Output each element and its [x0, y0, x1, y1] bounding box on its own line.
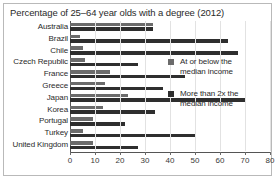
category-label: Chile: [50, 46, 68, 55]
x-tick-label: 10: [91, 156, 100, 165]
legend-label-line1: More than 2x the: [180, 89, 268, 99]
x-tick-label: 20: [116, 156, 125, 165]
chart-title: Percentage of 25–64 year olds with a deg…: [10, 7, 224, 18]
x-tick-label: 0: [68, 156, 72, 165]
category-label: Czech Republic: [13, 57, 68, 66]
gridline: [120, 21, 121, 151]
category-label: Japan: [47, 93, 68, 102]
x-tick: [195, 152, 196, 155]
chart-legend: At or below the median income More than …: [168, 57, 268, 121]
bar: [70, 87, 163, 91]
x-tick: [245, 152, 246, 155]
x-tick: [270, 152, 271, 155]
bar: [70, 110, 155, 114]
category-label: Brazil: [49, 34, 68, 43]
bar: [70, 141, 93, 145]
category-label: Korea: [47, 105, 68, 114]
bar: [70, 23, 153, 27]
category-label: Greece: [42, 81, 68, 90]
gridline: [270, 21, 271, 151]
x-tick: [145, 152, 146, 155]
bar: [70, 82, 105, 86]
legend-label-line1: At or below the: [180, 57, 268, 67]
legend-item-more-than-2x: More than 2x the median income: [168, 89, 268, 108]
x-tick-label: 60: [216, 156, 225, 165]
category-label: Portugal: [39, 116, 68, 125]
gridline: [145, 21, 146, 151]
bar: [70, 129, 83, 133]
chart-page: Percentage of 25–64 year olds with a deg…: [0, 0, 275, 179]
x-tick: [70, 152, 71, 155]
x-tick: [170, 152, 171, 155]
bar: [70, 70, 110, 74]
bar: [70, 94, 128, 98]
legend-item-at-or-below: At or below the median income: [168, 57, 268, 76]
category-label: United Kingdom: [12, 140, 68, 149]
bar: [70, 63, 138, 67]
bar: [70, 117, 93, 121]
x-tick-label: 70: [241, 156, 250, 165]
bar: [70, 134, 195, 138]
category-label: Australia: [38, 22, 68, 31]
legend-label-line2: median income: [180, 67, 268, 77]
x-tick-label: 50: [191, 156, 200, 165]
x-tick: [95, 152, 96, 155]
x-tick-label: 30: [141, 156, 150, 165]
bar: [70, 106, 103, 110]
bar: [70, 39, 228, 43]
bar: [70, 35, 80, 39]
category-label: Turkey: [44, 128, 68, 137]
bar: [70, 58, 85, 62]
legend-swatch-icon: [168, 59, 174, 65]
bar: [70, 46, 83, 50]
category-label: France: [44, 69, 68, 78]
x-tick-label: 80: [266, 156, 275, 165]
legend-swatch-icon: [168, 91, 174, 97]
x-tick: [120, 152, 121, 155]
bar: [70, 146, 138, 150]
x-tick-label: 40: [166, 156, 175, 165]
bar: [70, 122, 125, 126]
legend-label-line2: median income: [180, 99, 268, 109]
x-tick: [220, 152, 221, 155]
gridline: [95, 21, 96, 151]
bar: [70, 27, 153, 31]
